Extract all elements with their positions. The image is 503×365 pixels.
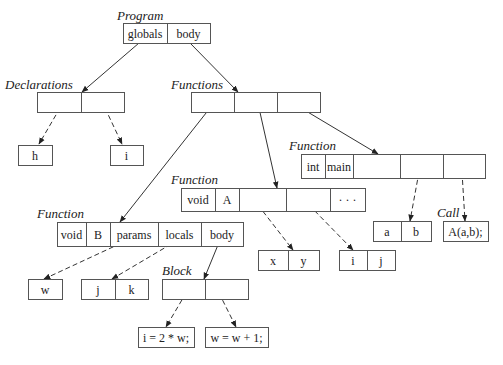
- cell-text: x: [270, 254, 276, 268]
- cell-text: j: [95, 283, 99, 297]
- node-block: Block: [162, 263, 249, 300]
- cell-text: h: [32, 149, 38, 163]
- cell-text: y: [301, 254, 307, 268]
- solid-arrow-declarations: [82, 43, 139, 92]
- cell-text: k: [129, 283, 135, 297]
- node-call: A(a,b);Call: [437, 205, 489, 242]
- cell-text: locals: [166, 228, 194, 242]
- node-stmt-2: w = w + 1;: [206, 328, 269, 348]
- cell-text: i = 2 * w;: [143, 331, 189, 345]
- ast-diagram: globalsbodyProgramDeclarationshiFunction…: [0, 0, 503, 365]
- node-function-b: voidBparamslocalsbodyFunction: [36, 206, 244, 247]
- dashed-arrow-main-locals: [410, 172, 419, 221]
- node-label: Call: [437, 205, 460, 220]
- cell-text: j: [378, 254, 382, 268]
- cell-text: void: [61, 228, 82, 242]
- cell-text: main: [327, 160, 351, 174]
- node-function-main: intmainFunction: [288, 138, 486, 179]
- cell-text: B: [94, 228, 102, 242]
- node-b-locals: jk: [82, 280, 149, 300]
- cell-text: params: [117, 228, 152, 242]
- cell-text: w = w + 1;: [210, 331, 262, 345]
- node-label: Function: [288, 138, 336, 153]
- node-stmt-1: i = 2 * w;: [139, 328, 195, 348]
- node-label: Function: [36, 206, 84, 221]
- dashed-arrow-call: [462, 172, 465, 221]
- cell-text: int: [307, 160, 320, 174]
- cell-text: body: [177, 27, 201, 41]
- cell-text: b: [413, 225, 419, 239]
- cell-text: A(a,b);: [448, 225, 482, 239]
- dashed-arrow-decl-h: [39, 108, 60, 144]
- cell-text: · · ·: [339, 193, 357, 207]
- node-decl-i: i: [111, 146, 144, 166]
- node-label: Block: [162, 263, 192, 278]
- node-label: Declarations: [4, 77, 73, 92]
- node-label: Program: [116, 8, 163, 23]
- solid-arrow-function-a: [259, 108, 277, 188]
- node-decl-h: h: [19, 146, 53, 166]
- node-functions: Functions: [170, 77, 321, 113]
- node-main-locals: ab: [374, 222, 432, 242]
- cell-text: body: [210, 228, 234, 242]
- cell-text: void: [187, 193, 208, 207]
- node-box: [192, 93, 321, 113]
- node-b-params: w: [29, 280, 63, 300]
- cell-text: w: [41, 283, 50, 297]
- node-box: [374, 222, 432, 242]
- cell-text: a: [384, 225, 390, 239]
- nodes-layer: globalsbodyProgramDeclarationshiFunction…: [4, 8, 489, 348]
- node-declarations: Declarations: [4, 77, 125, 113]
- node-a-params: xy: [259, 251, 320, 271]
- cell-text: globals: [128, 27, 163, 41]
- node-label: Functions: [170, 77, 223, 92]
- node-program: globalsbodyProgram: [116, 8, 211, 44]
- cell-text: A: [223, 193, 232, 207]
- node-a-locals: ij: [340, 251, 396, 271]
- dashed-arrow-decl-i: [105, 108, 122, 144]
- node-label: Function: [170, 172, 218, 187]
